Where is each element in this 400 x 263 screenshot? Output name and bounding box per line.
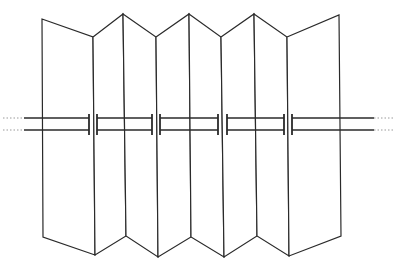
diagram-canvas (0, 0, 400, 263)
panel-5 (189, 14, 224, 257)
folding-screen-diagram (0, 0, 400, 263)
panel-4 (156, 14, 191, 257)
panel-6 (221, 14, 257, 257)
panel-8 (287, 15, 341, 256)
folded-panels (42, 14, 341, 257)
panel-2 (93, 14, 126, 255)
panel-3 (123, 14, 158, 257)
panel-1 (42, 19, 95, 255)
